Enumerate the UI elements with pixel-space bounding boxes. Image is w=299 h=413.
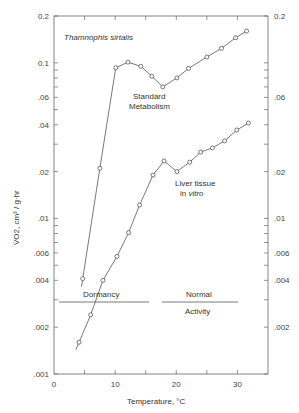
y-tick-label-right: .01 bbox=[274, 214, 286, 223]
y-tick-label-left: 0.2 bbox=[38, 12, 50, 21]
liver-tissue-label-2: in vitro bbox=[180, 189, 204, 198]
data-point-marker bbox=[115, 254, 119, 258]
y-tick-label-left: .001 bbox=[33, 370, 49, 379]
liver-tissue-label-1: Liver tissue bbox=[175, 179, 216, 188]
chart-title: Thamnophis sirtalis bbox=[64, 33, 133, 42]
data-series bbox=[76, 29, 250, 350]
data-point-marker bbox=[188, 160, 192, 164]
data-point-marker bbox=[245, 29, 249, 33]
x-tick-label: 20 bbox=[172, 380, 181, 389]
data-point-marker bbox=[138, 203, 142, 207]
data-point-marker bbox=[220, 46, 224, 50]
y-tick-label-right: .006 bbox=[274, 249, 290, 258]
y-tick-label-right: .02 bbox=[274, 168, 286, 177]
y-tick-label-left: .006 bbox=[33, 249, 49, 258]
y-tick-label-left: 0.1 bbox=[38, 59, 50, 68]
y-axis-title: V̇O2, cm³ / g·hr bbox=[12, 190, 21, 245]
axis-ticks: 01020300.20.1.06.04.02.01.006.004.002.00… bbox=[33, 12, 290, 389]
y-tick-label-right: 0.2 bbox=[274, 12, 286, 21]
standard-metabolism-label-1: Standard bbox=[133, 92, 165, 101]
y-tick-label-left: .02 bbox=[38, 168, 50, 177]
data-point-marker bbox=[126, 60, 130, 64]
data-point-marker bbox=[205, 55, 209, 59]
data-point-marker bbox=[77, 340, 81, 344]
data-point-marker bbox=[234, 36, 238, 40]
data-point-marker bbox=[246, 121, 250, 125]
data-point-marker bbox=[150, 74, 154, 78]
y-tick-label-right: .002 bbox=[274, 323, 290, 332]
data-point-marker bbox=[210, 146, 214, 150]
plot-frame bbox=[54, 16, 268, 374]
dormancy-label: Dormancy bbox=[83, 290, 119, 299]
data-point-marker bbox=[199, 150, 203, 154]
data-point-marker bbox=[235, 128, 239, 132]
y-tick-label-right: .06 bbox=[274, 93, 286, 102]
x-tick-label: 30 bbox=[233, 380, 242, 389]
data-point-marker bbox=[127, 231, 131, 235]
y-tick-label-left: .04 bbox=[38, 121, 50, 130]
y-tick-label-left: .004 bbox=[33, 276, 49, 285]
y-tick-label-left: .06 bbox=[38, 93, 50, 102]
data-point-marker bbox=[175, 76, 179, 80]
standard-metabolism-label-2: Metabolism bbox=[129, 102, 170, 111]
data-point-marker bbox=[161, 85, 165, 89]
y-tick-label-left: .01 bbox=[38, 214, 50, 223]
activity-label: Activity bbox=[185, 307, 210, 316]
x-axis-title: Temperature, °C bbox=[127, 397, 186, 406]
data-point-marker bbox=[139, 64, 143, 68]
data-point-marker bbox=[162, 159, 166, 163]
data-point-marker bbox=[151, 173, 155, 177]
y-tick-label-right: .004 bbox=[274, 276, 290, 285]
data-point-marker bbox=[175, 170, 179, 174]
chart: 01020300.20.1.06.04.02.01.006.004.002.00… bbox=[0, 0, 299, 413]
data-point-marker bbox=[89, 313, 93, 317]
data-point-marker bbox=[98, 166, 102, 170]
data-point-marker bbox=[223, 139, 227, 143]
normal-label: Normal bbox=[186, 290, 212, 299]
data-point-marker bbox=[101, 278, 105, 282]
data-point-marker bbox=[114, 66, 118, 70]
data-point-marker bbox=[187, 66, 191, 70]
y-tick-label-left: .002 bbox=[33, 323, 49, 332]
x-tick-label: 0 bbox=[52, 380, 57, 389]
x-tick-label: 10 bbox=[111, 380, 120, 389]
plot-border bbox=[54, 16, 268, 374]
data-point-marker bbox=[81, 277, 85, 281]
